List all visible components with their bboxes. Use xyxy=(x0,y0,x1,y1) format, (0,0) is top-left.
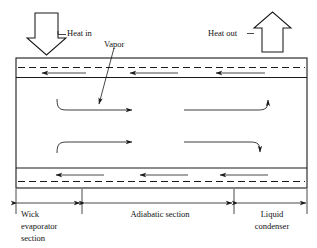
lower-left-vapor-arrow-icon xyxy=(57,142,132,153)
wick-evaporator-label-line2: evaporator xyxy=(21,221,57,232)
upper-left-vapor-arrow-icon xyxy=(57,99,132,110)
heat-out-block-arrow-icon xyxy=(254,12,291,52)
wick-evaporator-label-line1: Wick xyxy=(21,209,39,220)
vapor-leader-arrow-icon xyxy=(99,48,114,104)
liquid-condenser-label-line2: condenser xyxy=(237,221,307,232)
wick-evaporator-label-line3: section xyxy=(21,233,45,244)
lower-right-vapor-arrow-icon xyxy=(184,142,260,152)
heat-in-leader-line xyxy=(58,31,66,35)
adiabatic-section-label: Adiabatic section xyxy=(100,209,220,220)
vapor-label: Vapor xyxy=(104,39,124,50)
vapor-flow-arrows xyxy=(57,99,268,153)
heat-in-block-arrow-icon xyxy=(27,13,66,55)
heat-out-label: Heat out xyxy=(208,28,237,39)
heat-pipe-diagram: Heat in Heat out Vapor Wick evaporator s… xyxy=(0,0,317,248)
liquid-condenser-label-line1: Liquid xyxy=(237,209,307,220)
upper-right-vapor-arrow-icon xyxy=(184,100,268,110)
heat-in-label: Heat in xyxy=(67,28,92,39)
